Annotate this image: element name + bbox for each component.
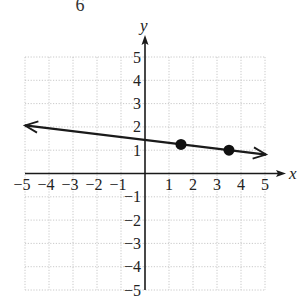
y-tick-label: 4 (133, 72, 141, 89)
x-tick-label: −3 (61, 176, 78, 193)
x-tick-label: −4 (37, 176, 54, 193)
y-tick-label: −4 (124, 258, 141, 275)
x-tick-label: −5 (13, 176, 30, 193)
y-tick-label: −2 (124, 212, 141, 229)
data-point (224, 145, 235, 156)
x-tick-label: 2 (189, 176, 197, 193)
x-tick-label: 3 (213, 176, 221, 193)
y-tick-label: −5 (124, 282, 141, 299)
y-tick-label: 2 (133, 118, 141, 135)
y-axis-label: y (138, 16, 148, 35)
x-tick-label: 1 (165, 176, 173, 193)
x-tick-label: 5 (261, 176, 269, 193)
x-tick-label: 4 (237, 176, 245, 193)
y-tick-label: −3 (124, 235, 141, 252)
y-tick-label: 1 (133, 142, 141, 159)
axes (25, 35, 286, 290)
y-tick-label: −1 (124, 188, 141, 205)
coordinate-plane: 6 −5−4−3−2−112345−5−4−3−2−112345 x y (0, 0, 308, 300)
x-tick-label: −2 (85, 176, 102, 193)
y-tick-label: 3 (133, 95, 141, 112)
y-tick-label: 5 (133, 49, 141, 66)
header-fragment-text: 6 (76, 0, 85, 15)
data-point (176, 139, 187, 150)
x-axis-label: x (288, 164, 297, 183)
